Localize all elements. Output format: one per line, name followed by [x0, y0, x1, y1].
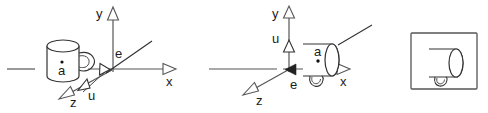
point-a-label: a — [58, 63, 66, 78]
x-axis-label: x — [166, 74, 173, 89]
y-axis-label-2: y — [272, 6, 279, 21]
u-vector-arrowhead — [100, 64, 111, 76]
y-axis-arrowhead-2 — [284, 6, 295, 18]
mug-rotated: a — [303, 44, 339, 86]
mug-rim-2 — [325, 44, 339, 76]
mug-upright: a — [47, 40, 94, 82]
mug-result — [429, 49, 463, 86]
y-axis-arrowhead — [108, 7, 119, 20]
mug-rim-3 — [449, 49, 463, 77]
mug-handle-inner — [79, 56, 89, 68]
y-axis-label: y — [96, 6, 103, 21]
mug-rim — [47, 40, 79, 52]
mug-handle-inner-2 — [312, 77, 321, 84]
point-a-marker-2 — [316, 59, 319, 62]
e-direction-ray-2 — [338, 25, 372, 45]
mug-handle-inner-3 — [437, 78, 445, 84]
z-axis-line-2 — [254, 70, 288, 89]
e-vector-arrowhead-2 — [285, 64, 296, 75]
x-axis-arrowhead — [163, 64, 176, 75]
u-vector-arrowhead-2 — [284, 40, 295, 52]
panel-before-rotation: x y z e u a — [7, 6, 176, 110]
e-vector-label: e — [115, 46, 122, 61]
point-a-label-2: a — [314, 44, 322, 59]
z-axis-label: z — [70, 95, 77, 110]
diagram-canvas: x y z e u a — [0, 0, 488, 113]
x-axis-label-2: x — [340, 74, 347, 89]
panel-result-framed — [411, 33, 477, 89]
u-vector-label-2: u — [272, 31, 279, 46]
u-vector-label: u — [88, 88, 95, 103]
panel-after-rotation: x y z u e a — [209, 6, 372, 108]
z-axis-label-2: z — [256, 93, 263, 108]
e-vector-label-2: e — [290, 77, 297, 92]
diagram-svg: x y z e u a — [0, 0, 488, 113]
